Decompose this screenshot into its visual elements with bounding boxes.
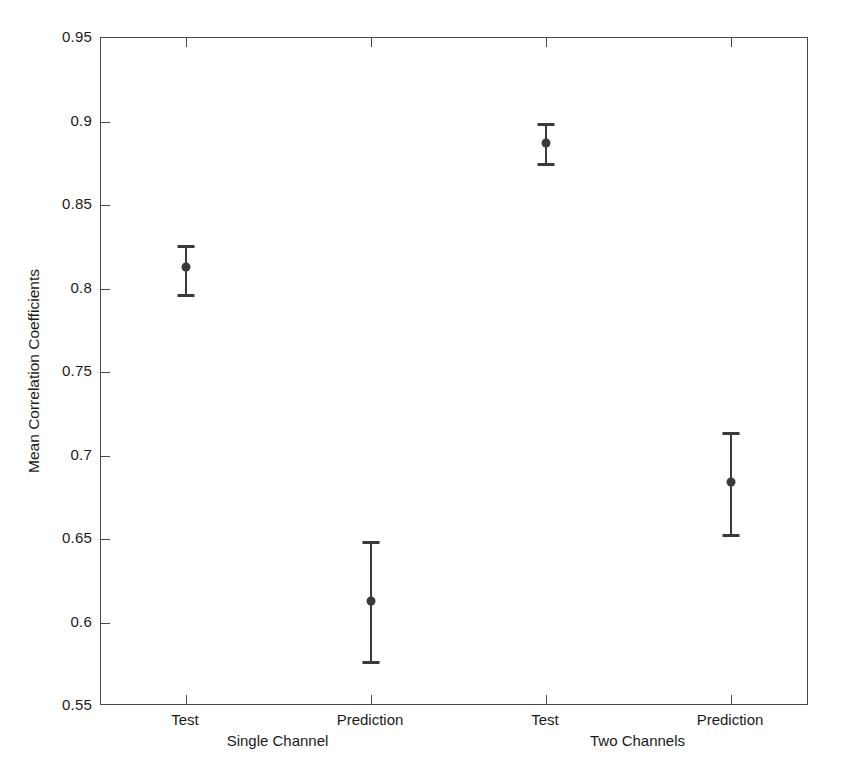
y-axis-tick	[101, 122, 110, 123]
y-axis-tick-label: 0.9	[0, 113, 92, 128]
error-bar-cap-lower	[363, 661, 380, 664]
x-axis-tick-top	[731, 38, 732, 47]
data-point-marker	[727, 478, 736, 487]
plot-area	[100, 37, 808, 705]
y-axis-tick-label: 0.85	[0, 196, 92, 211]
x-axis-tick	[731, 695, 732, 704]
x-axis-tick-label: Test	[171, 712, 199, 728]
data-point-marker	[182, 262, 191, 271]
y-axis-tick	[101, 289, 110, 290]
x-axis-group-label: Single Channel	[227, 733, 329, 749]
x-axis-tick-top	[186, 38, 187, 47]
x-axis-tick	[186, 695, 187, 704]
x-axis-tick-label: Prediction	[697, 712, 764, 728]
y-axis-tick-label: 0.6	[0, 614, 92, 629]
error-bar-cap-upper	[363, 541, 380, 544]
y-axis-tick-label: 0.7	[0, 447, 92, 462]
y-axis-tick	[101, 539, 110, 540]
error-bar-cap-upper	[723, 432, 740, 435]
y-axis-tick-label: 0.95	[0, 29, 92, 44]
y-axis-tick	[101, 372, 110, 373]
x-axis-tick-label: Prediction	[337, 712, 404, 728]
data-point-marker	[542, 139, 551, 148]
y-axis-tick-label: 0.8	[0, 280, 92, 295]
error-bar-cap-upper	[538, 123, 555, 126]
y-axis-tick	[101, 456, 110, 457]
error-bar-cap-upper	[178, 245, 195, 248]
y-axis-tick	[101, 623, 110, 624]
x-axis-tick-top	[371, 38, 372, 47]
x-axis-tick-label: Test	[531, 712, 559, 728]
error-bar-cap-lower	[178, 294, 195, 297]
data-point-marker	[367, 596, 376, 605]
error-bar-cap-lower	[538, 163, 555, 166]
x-axis-tick-top	[546, 38, 547, 47]
y-axis-tick-label: 0.75	[0, 363, 92, 378]
y-axis-tick-label: 0.65	[0, 530, 92, 545]
chart-figure: Mean Correlation Coefficients 0.550.60.6…	[0, 0, 843, 776]
x-axis-tick	[546, 695, 547, 704]
error-bar-cap-lower	[723, 534, 740, 537]
y-axis-tick	[101, 205, 110, 206]
x-axis-group-label: Two Channels	[590, 733, 685, 749]
x-axis-tick	[371, 695, 372, 704]
y-axis-tick-label: 0.55	[0, 697, 92, 712]
